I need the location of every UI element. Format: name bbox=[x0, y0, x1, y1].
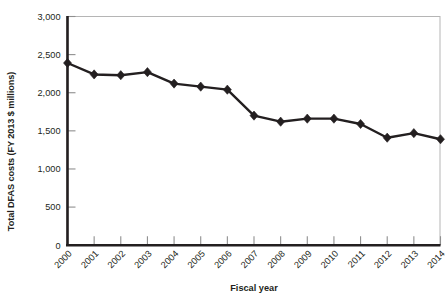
x-tick-label: 2011 bbox=[346, 249, 367, 270]
y-tick-label: 1,000 bbox=[38, 164, 61, 174]
x-tick-label: 2008 bbox=[266, 249, 288, 271]
x-tick-label: 2014 bbox=[425, 249, 447, 271]
x-tick-label: 2013 bbox=[399, 249, 421, 271]
x-tick-label: 2012 bbox=[372, 249, 394, 271]
y-tick-label: 1,500 bbox=[38, 126, 61, 136]
y-axis-tick-labels: 05001,0001,5002,0002,5003,000 bbox=[38, 12, 61, 251]
chart-figure: Total DFAS costs (FY 2013 $ millions) 05… bbox=[0, 0, 447, 303]
plot-area-background bbox=[67, 17, 440, 246]
plot-frame bbox=[67, 17, 440, 246]
x-tick-label: 2000 bbox=[52, 249, 74, 271]
line-chart-plot: 05001,0001,5002,0002,5003,000 2000200120… bbox=[0, 0, 447, 303]
y-tick-label: 500 bbox=[45, 202, 60, 212]
x-tick-label: 2005 bbox=[186, 249, 208, 271]
y-tick-label: 3,000 bbox=[38, 12, 61, 22]
x-tick-label: 2003 bbox=[132, 249, 154, 271]
x-tick-label: 2007 bbox=[239, 249, 261, 271]
x-tick-label: 2001 bbox=[79, 249, 101, 271]
x-tick-label: 2002 bbox=[106, 249, 128, 271]
y-tick-label: 0 bbox=[55, 241, 60, 251]
y-tick-label: 2,000 bbox=[38, 88, 61, 98]
y-tick-label: 2,500 bbox=[38, 50, 61, 60]
x-tick-label: 2010 bbox=[319, 249, 341, 271]
x-tick-label: 2009 bbox=[292, 249, 314, 271]
x-tick-label: 2006 bbox=[212, 249, 234, 271]
x-axis-title: Fiscal year bbox=[67, 283, 441, 293]
x-axis-tick-labels: 2000200120022003200420052006200720082009… bbox=[52, 249, 447, 271]
x-tick-label: 2004 bbox=[159, 249, 181, 271]
